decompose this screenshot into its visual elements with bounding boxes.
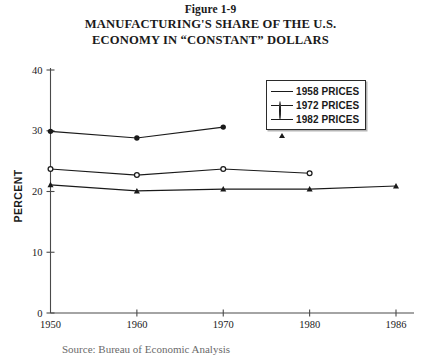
x-tick-label: 1970 <box>213 319 234 330</box>
y-tick-label: 40 <box>32 65 43 76</box>
source-caption: Source: Bureau of Economic Analysis <box>62 343 402 356</box>
legend-label-1972-prices: 1972 PRICES <box>296 100 359 111</box>
data-series-1958-prices <box>48 124 226 140</box>
data-series-1982-prices <box>48 182 400 194</box>
legend-label-1958-prices: 1958 PRICES <box>296 86 359 97</box>
data-point-marker[interactable] <box>307 171 312 176</box>
data-point-marker[interactable] <box>221 124 226 129</box>
x-tick-label: 1960 <box>126 319 147 330</box>
legend-item-1982-prices[interactable]: 1982 PRICES <box>271 112 359 126</box>
chart-legend: 1958 PRICES 1972 PRICES 1982 PRICES <box>266 80 366 130</box>
y-axis-ticks: 010203040 <box>32 65 55 319</box>
data-point-marker[interactable] <box>221 167 226 172</box>
filled-circle-marker-icon <box>271 85 293 97</box>
legend-item-1958-prices[interactable]: 1958 PRICES <box>271 84 359 98</box>
y-tick-label: 10 <box>32 247 43 258</box>
data-point-marker[interactable] <box>48 129 53 134</box>
y-axis-title-group: PERCENT <box>12 169 24 222</box>
open-circle-marker-icon <box>271 99 293 111</box>
filled-triangle-marker-icon <box>271 113 293 125</box>
data-point-marker[interactable] <box>48 167 53 172</box>
data-series-1972-prices <box>48 167 312 178</box>
x-tick-label: 1950 <box>40 319 61 330</box>
y-tick-label: 20 <box>32 186 43 197</box>
x-tick-label: 1986 <box>386 319 407 330</box>
series-line <box>51 169 310 175</box>
y-tick-label: 30 <box>32 125 43 136</box>
y-tick-label: 0 <box>37 308 42 319</box>
legend-item-1972-prices[interactable]: 1972 PRICES <box>271 98 359 112</box>
legend-label-1982-prices: 1982 PRICES <box>296 114 359 125</box>
data-point-marker[interactable] <box>134 173 139 178</box>
x-tick-label: 1980 <box>299 319 320 330</box>
data-point-marker[interactable] <box>134 135 139 140</box>
y-axis-title: PERCENT <box>12 169 24 222</box>
